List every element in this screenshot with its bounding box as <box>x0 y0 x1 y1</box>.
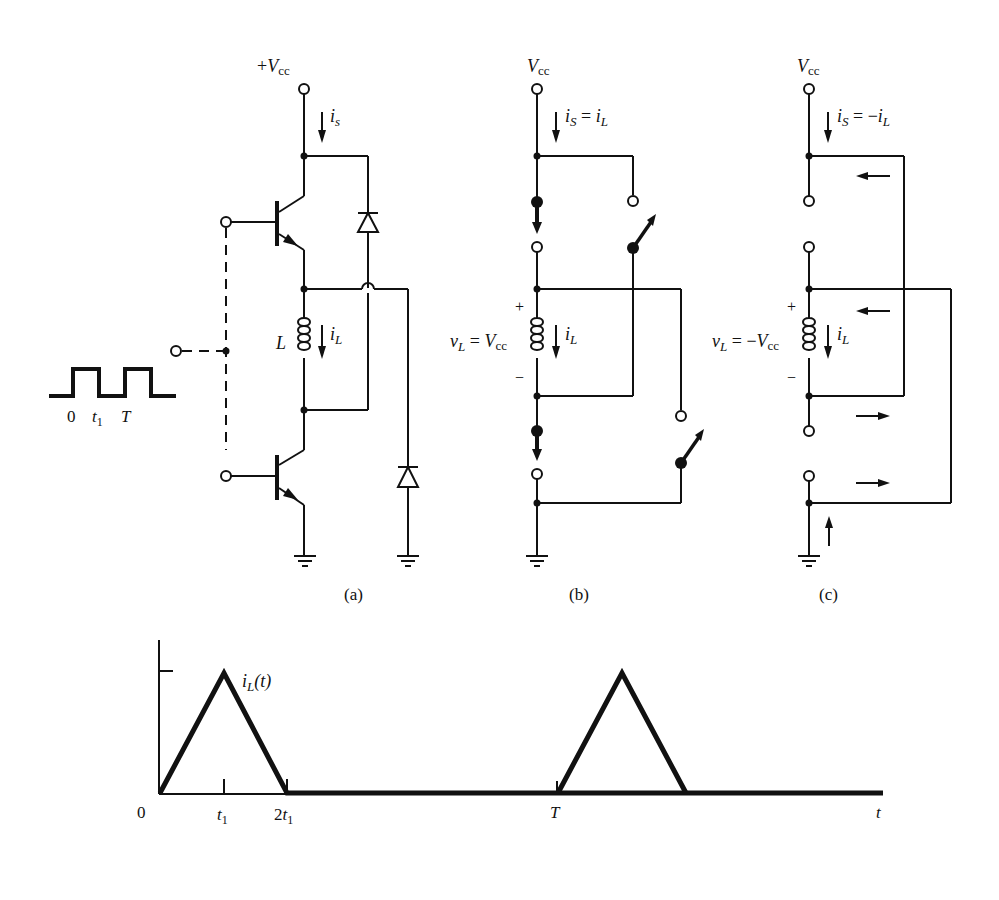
tick-T: T <box>550 803 561 822</box>
current-arrow-left-icon <box>856 172 868 180</box>
lower-base-terminal <box>221 471 231 481</box>
inductor-voltage-expr-b: vL = Vcc <box>450 331 507 354</box>
input-pulse-train: 0 t1 T <box>49 369 176 429</box>
supply-label-a: +Vcc <box>257 56 290 78</box>
x-axis-label: t <box>876 803 882 822</box>
panel-a-circuit: +Vcc is <box>171 56 419 604</box>
svg-text:+: + <box>787 298 796 315</box>
ground-icon <box>526 556 548 566</box>
inductor-icon-b <box>531 289 543 396</box>
circuit-figure: 0 t1 T +Vcc is <box>0 0 999 900</box>
inductor-current-label-a: iL <box>330 324 342 347</box>
pulse-tick-T: T <box>121 407 132 426</box>
caption-c: (c) <box>819 585 838 604</box>
svg-text:−: − <box>515 369 524 386</box>
supply-label-b: Vcc <box>527 56 550 78</box>
switch-terminal-b1 <box>628 196 638 206</box>
inductor-icon-a <box>298 289 310 410</box>
inductor-current-waveform: iL(t) 0 t1 2t1 T t <box>137 640 883 827</box>
tick-2t1: 2t1 <box>274 805 293 827</box>
upper-transistor-icon <box>231 156 304 289</box>
caption-b: (b) <box>569 585 589 604</box>
supply-terminal-a <box>299 84 309 94</box>
inductor-label-a: L <box>275 333 286 353</box>
inductor-icon-c <box>803 289 815 396</box>
ground-icon <box>397 556 419 566</box>
curve-label: iL(t) <box>242 671 271 694</box>
lower-diode-icon <box>398 467 418 487</box>
svg-text:−: − <box>787 369 796 386</box>
supply-label-c: Vcc <box>797 56 820 78</box>
source-current-expr-c: iS = −iL <box>837 106 890 129</box>
svg-text:+: + <box>515 298 524 315</box>
source-current-arrow-a <box>318 130 326 143</box>
inductor-current-label-b: iL <box>565 324 577 347</box>
upper-base-terminal <box>221 217 231 227</box>
panel-b-circuit: Vcc iS = iL + vL = Vcc iL − <box>450 56 704 604</box>
waveform-pulse-1 <box>160 673 883 793</box>
caption-a: (a) <box>344 585 363 604</box>
panel-c-circuit: Vcc iS = −iL + vL = −Vcc iL − <box>712 56 951 604</box>
source-current-label-a: is <box>330 106 340 129</box>
pulse-tick-t1: t1 <box>92 407 103 429</box>
upper-diode-icon <box>358 213 378 232</box>
current-arrow-right-icon <box>878 412 890 420</box>
pulse-tick-0: 0 <box>67 407 76 426</box>
ground-icon <box>798 556 820 566</box>
current-arrow-left-icon <box>856 307 868 315</box>
ground-icon <box>294 556 316 566</box>
current-arrow-right-icon <box>878 479 890 487</box>
inductor-current-label-c: iL <box>837 324 849 347</box>
tick-t1: t1 <box>217 805 228 827</box>
source-current-expr-b: iS = iL <box>565 106 608 129</box>
tick-0: 0 <box>137 803 146 822</box>
current-arrow-up-icon <box>825 516 833 528</box>
lower-transistor-icon <box>231 410 304 555</box>
waveform-pulse-2 <box>558 673 686 793</box>
control-input-terminal <box>171 346 181 356</box>
inductor-voltage-expr-c: vL = −Vcc <box>712 331 779 354</box>
